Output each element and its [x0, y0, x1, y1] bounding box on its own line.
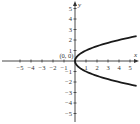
x-arrow-icon: [134, 59, 139, 63]
y-tick-label: 2: [69, 36, 72, 43]
y-tick-label: −4: [65, 99, 73, 106]
y-tick-label: −5: [65, 110, 72, 117]
y-tick-label: 4: [69, 15, 73, 22]
y-tick-label: −2: [65, 78, 72, 85]
x-tick-label: −3: [39, 64, 46, 71]
x-tick-label: −4: [28, 64, 36, 71]
x-tick-label: 4: [117, 64, 121, 71]
origin-label: (0, 0): [59, 52, 73, 60]
x-tick-label: 3: [106, 64, 109, 71]
y-arrow-icon: [73, 1, 77, 6]
x-tick-label: 1: [84, 64, 87, 71]
x-axis: [2, 59, 139, 63]
parabola-graph: −5−4−3−2−11234554321−1−2−3−4−5 x y (0, 0…: [0, 0, 140, 124]
x-tick-label: 2: [95, 64, 98, 71]
x-tick-label: −2: [50, 64, 57, 71]
y-tick-label: 5: [69, 5, 72, 12]
y-tick-label: 3: [69, 26, 72, 33]
y-axis-label: y: [77, 1, 82, 9]
y-tick-label: −1: [65, 68, 72, 75]
x-tick-label: 5: [128, 64, 131, 71]
y-tick-label: −3: [65, 89, 72, 96]
x-axis-label: x: [133, 51, 138, 59]
x-tick-label: −5: [17, 64, 24, 71]
